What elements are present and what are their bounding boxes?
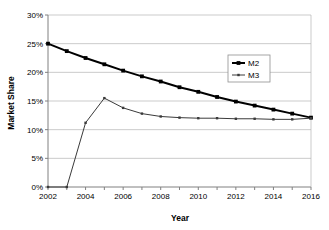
y-tick-label: 10% [27, 126, 43, 135]
data-point [103, 97, 105, 99]
data-point [122, 107, 124, 109]
y-tick-label: 20% [27, 68, 43, 77]
data-point [178, 116, 180, 118]
x-tick-label: 2004 [77, 192, 95, 201]
market-share-line-chart: 0%5%10%15%20%25%30% 20022004200620082010… [0, 0, 329, 230]
x-tick-label: 2008 [152, 192, 170, 201]
data-point [196, 90, 200, 94]
y-axis-title: Market Share [6, 76, 16, 130]
x-tick-label: 2016 [302, 192, 320, 201]
data-point [272, 108, 276, 112]
x-tick-label: 2014 [265, 192, 283, 201]
data-point [291, 118, 293, 120]
data-point [235, 118, 237, 120]
x-tick-label: 2002 [39, 192, 57, 201]
data-point [46, 42, 50, 46]
legend-label: M3 [248, 71, 260, 80]
data-point [197, 117, 199, 119]
x-tick-label: 2006 [114, 192, 132, 201]
data-point [216, 117, 218, 119]
chart-canvas: 0%5%10%15%20%25%30% 20022004200620082010… [0, 0, 329, 230]
chart-legend[interactable]: M2M3 [228, 55, 270, 82]
data-point [140, 74, 144, 78]
data-point [102, 62, 106, 66]
data-point [215, 95, 219, 99]
y-tick-label: 25% [27, 40, 43, 49]
data-point [47, 186, 49, 188]
data-point [290, 112, 294, 116]
legend-marker [237, 74, 239, 76]
x-axis-title: Year [171, 213, 190, 223]
data-point [253, 104, 257, 108]
data-point [310, 117, 312, 119]
data-point [178, 85, 182, 89]
data-point [121, 69, 125, 73]
data-point [84, 56, 88, 60]
x-tick-label: 2010 [189, 192, 207, 201]
y-tick-label: 0% [31, 183, 43, 192]
data-point [141, 112, 143, 114]
data-point [160, 115, 162, 117]
legend-marker [237, 61, 241, 65]
data-point [159, 80, 163, 84]
legend-label: M2 [248, 59, 260, 68]
y-tick-label: 30% [27, 11, 43, 20]
data-point [272, 118, 274, 120]
data-point [234, 100, 238, 104]
data-point [84, 122, 86, 124]
data-point [253, 118, 255, 120]
x-tick-label: 2012 [227, 192, 245, 201]
data-point [66, 186, 68, 188]
y-tick-label: 15% [27, 97, 43, 106]
data-point [65, 49, 69, 53]
y-tick-label: 5% [31, 154, 43, 163]
